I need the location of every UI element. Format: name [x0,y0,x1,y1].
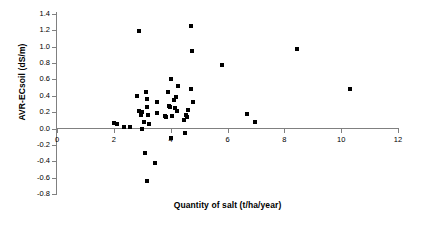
data-point [115,122,119,126]
data-point [189,87,193,91]
y-axis-tick-label: 1.2 [26,25,50,34]
data-point [174,95,178,99]
y-axis-tick-label: -0.4 [26,156,50,165]
data-point [143,151,147,155]
data-point [140,127,144,131]
data-point [166,90,170,94]
data-point [140,110,144,114]
data-point [189,24,193,28]
y-axis-tick-label: 0.8 [26,58,50,67]
data-point [153,161,157,165]
data-point [164,115,168,119]
data-point [137,29,141,33]
y-axis-tick-label: 0.6 [26,74,50,83]
y-axis-tick-label: 0.0 [26,124,50,133]
data-point [128,125,132,129]
data-point [145,105,149,109]
data-point [146,113,150,117]
data-point [170,114,174,118]
data-point [144,90,148,94]
data-point [155,111,159,115]
y-axis-tick-label: -0.8 [26,189,50,198]
data-point [169,136,173,140]
data-point [191,100,195,104]
data-point [122,125,126,129]
data-point [135,94,139,98]
y-axis-tick [52,194,57,195]
data-point [145,179,149,183]
y-axis-tick-label: 0.4 [26,91,50,100]
y-axis-tick-label: 0.2 [26,107,50,116]
data-point [169,77,173,81]
data-point [220,63,224,67]
y-axis-tick-label: 1.0 [26,42,50,51]
data-point [185,115,189,119]
data-point [145,97,149,101]
data-point [245,112,249,116]
data-point [147,122,151,126]
y-axis-tick-label: 1.4 [26,9,50,18]
x-axis-tick [398,128,399,133]
scatter-chart: AVR-ECsoil (dS/m) -0.8-0.6-0.4-0.20.00.2… [0,0,438,226]
data-point [175,109,179,113]
data-point [155,100,159,104]
data-point [183,131,187,135]
data-point [142,120,146,124]
data-point [295,47,299,51]
data-point [176,84,180,88]
data-point [253,120,257,124]
plot-area [57,13,398,193]
data-point [186,108,190,112]
data-point [190,49,194,53]
y-axis-tick-label: -0.6 [26,173,50,182]
data-point [348,87,352,91]
data-point [168,105,172,109]
x-axis-title: Quantity of salt (t/ha/year) [57,200,398,210]
